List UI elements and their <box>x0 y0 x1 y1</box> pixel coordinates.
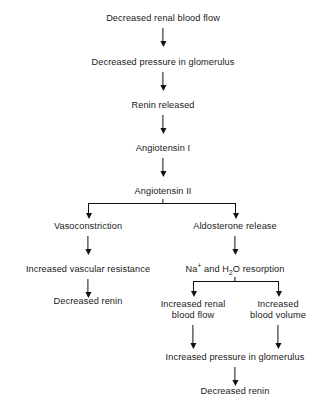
node-decreased-renin-right: Decreased renin <box>201 386 270 397</box>
node-renin-released: Renin released <box>131 100 194 111</box>
node-vasoconstriction: Vasoconstriction <box>54 221 122 232</box>
node-decreased-renal-blood-flow: Decreased renal blood flow <box>106 13 220 24</box>
node-increased-renal-blood-flow: Increased renalblood flow <box>153 299 233 321</box>
connector-drop-to-aldosterone <box>235 203 236 213</box>
increased-renal-line2: blood flow <box>172 310 214 320</box>
node-decreased-pressure-in-glomerulus: Decreased pressure in glomerulus <box>92 57 235 68</box>
connector-hbar-na-h2o-split <box>193 281 279 282</box>
arrow-to-decreased-renin-right <box>234 367 235 380</box>
node-aldosterone-release: Aldosterone release <box>193 221 276 232</box>
connector-hbar-angiotensin-ii-split <box>88 203 236 204</box>
node-angiotensin-ii: Angiotensin II <box>135 186 192 197</box>
increased-volume-line2: blood volume <box>250 310 306 320</box>
flowchart-canvas: Decreased renal blood flow Decreased pre… <box>0 0 326 410</box>
node-increased-pressure-in-glomerulus: Increased pressure in glomerulus <box>166 352 305 363</box>
connector-drop-to-increased-blood-volume <box>278 281 279 291</box>
and-h-label: and H <box>201 264 229 274</box>
node-decreased-renin-left: Decreased renin <box>54 296 123 307</box>
arrow-to-increased-vascular-resistance <box>87 236 88 249</box>
node-na-h2o-resorption: Na+ and H2O resorption <box>186 264 285 275</box>
o-resorption-label: O resorption <box>233 264 285 274</box>
increased-renal-line1: Increased renal <box>161 299 226 309</box>
increased-volume-line1: Increased <box>257 299 298 309</box>
connector-drop-to-vasoconstriction <box>88 203 89 213</box>
arrow-blood-volume-to-increased-pressure <box>277 325 278 343</box>
arrow-to-angiotensin-i <box>162 115 163 128</box>
arrow-to-renin-released <box>162 72 163 85</box>
arrow-to-na-h2o-resorption <box>234 236 235 249</box>
connector-drop-to-increased-renal-blood-flow <box>193 281 194 291</box>
arrow-renal-flow-to-increased-pressure <box>192 325 193 343</box>
arrow-to-angiotensin-ii <box>162 158 163 171</box>
arrow-to-decreased-pressure <box>162 28 163 41</box>
node-angiotensin-i: Angiotensin I <box>136 143 190 154</box>
arrow-to-decreased-renin-left <box>87 279 88 292</box>
node-increased-blood-volume: Increasedblood volume <box>238 299 318 321</box>
na-label: Na <box>186 264 198 274</box>
node-increased-vascular-resistance: Increased vascular resistance <box>26 264 150 275</box>
